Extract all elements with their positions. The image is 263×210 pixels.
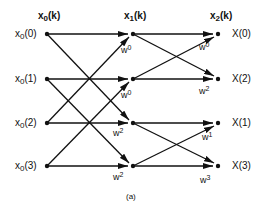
edge — [47, 37, 129, 123]
edge — [47, 82, 129, 166]
stage2-weight-0: w0 — [199, 41, 209, 52]
node — [216, 32, 220, 36]
column-header-x0: x0(k) — [38, 11, 60, 24]
input-label-2: x0(2) — [15, 118, 37, 131]
edge — [133, 123, 214, 163]
output-label-1: X(2) — [232, 74, 251, 84]
node — [45, 32, 49, 36]
stage1-weight-1: w0 — [121, 89, 131, 100]
stage1-weight-2: w2 — [113, 127, 123, 138]
node — [216, 121, 220, 125]
node — [45, 164, 49, 168]
figure-caption: (a) — [126, 192, 136, 202]
stage2-weight-1: w2 — [199, 85, 209, 96]
stage1-weight-0: w0 — [121, 44, 131, 55]
column-header-x1: x1(k) — [124, 11, 146, 24]
node — [216, 164, 220, 168]
node — [45, 77, 49, 81]
node — [131, 77, 135, 81]
input-label-0: x0(0) — [15, 29, 37, 42]
column-header-x2: x2(k) — [210, 11, 232, 24]
node — [45, 121, 49, 125]
stage2-weight-2: w1 — [202, 131, 212, 142]
edge — [47, 34, 129, 120]
output-label-2: X(1) — [232, 118, 251, 128]
edge — [47, 79, 129, 163]
node — [131, 121, 135, 125]
stage1-weight-3: w2 — [113, 171, 123, 182]
node — [131, 32, 135, 36]
node — [216, 77, 220, 81]
butterfly-graph — [0, 0, 263, 210]
input-label-1: x0(1) — [15, 74, 37, 87]
output-label-3: X(3) — [232, 161, 251, 171]
node — [131, 164, 135, 168]
stage2-weight-3: w3 — [200, 174, 210, 185]
output-label-0: X(0) — [232, 29, 251, 39]
input-label-3: x0(3) — [15, 161, 37, 174]
